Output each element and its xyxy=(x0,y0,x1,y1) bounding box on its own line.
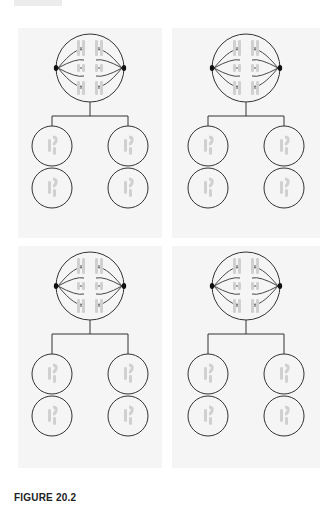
figure-caption: FIGURE 20.2 xyxy=(14,492,76,503)
panel-3 xyxy=(18,246,162,468)
panel-2 xyxy=(172,28,320,238)
panel-4 xyxy=(172,246,320,468)
cell-division-diagram xyxy=(18,28,162,238)
cell-division-diagram xyxy=(172,28,320,238)
cell-division-diagram xyxy=(172,246,320,468)
cell-division-diagram xyxy=(18,246,162,468)
header-strip xyxy=(14,0,62,6)
panel-1 xyxy=(18,28,162,238)
